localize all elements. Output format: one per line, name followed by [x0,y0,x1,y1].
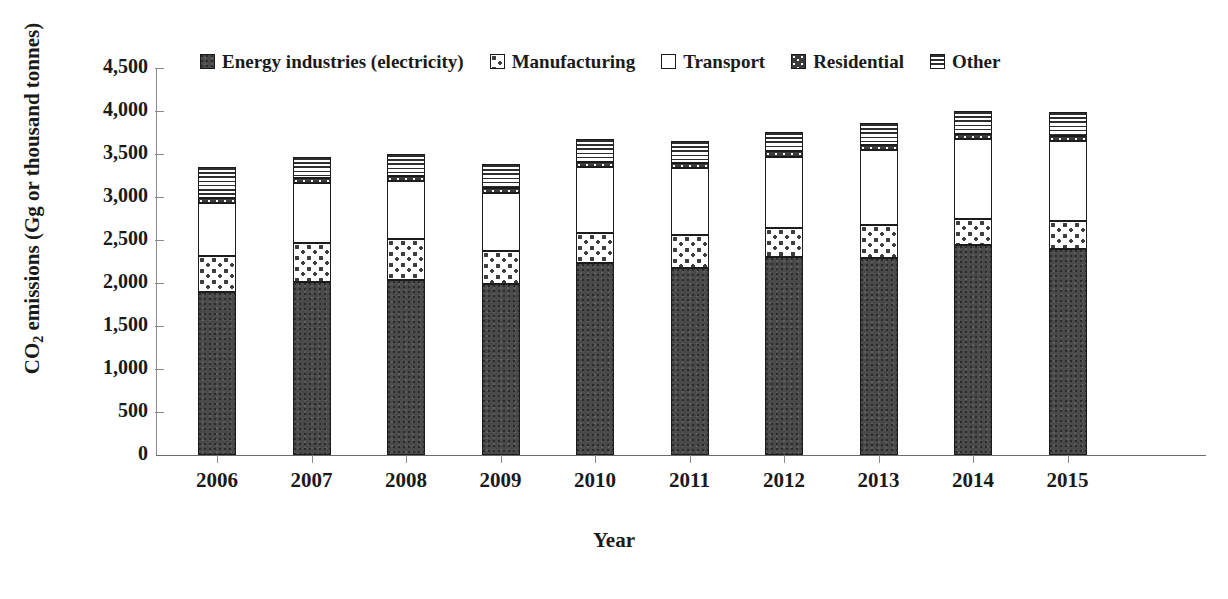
bar-segment-energy[interactable] [198,292,236,455]
bar-segment-residential[interactable] [860,145,898,150]
x-axis-tick-mark [595,455,596,463]
bar-segment-manufacturing[interactable] [576,233,614,263]
bar-segment-other[interactable] [387,154,425,176]
bar-segment-manufacturing[interactable] [387,239,425,280]
bar-segment-other[interactable] [482,164,520,187]
bar-segment-energy[interactable] [576,263,614,455]
legend-swatch-other [930,54,945,69]
x-axis-tick-label: 2007 [267,468,357,493]
bar-segment-transport[interactable] [860,150,898,225]
bar-segment-residential[interactable] [293,178,331,183]
y-axis-title-subscript: 2 [31,336,46,343]
bar-segment-transport[interactable] [293,183,331,242]
bar-segment-other[interactable] [860,123,898,145]
x-axis-tick-mark [690,455,691,463]
bar-2014[interactable] [954,68,992,455]
bar-segment-other[interactable] [576,139,614,162]
legend-swatch-manufacturing [490,54,505,69]
x-axis-tick-label: 2015 [1023,468,1113,493]
x-axis-tick-mark [879,455,880,463]
bar-2010[interactable] [576,68,614,455]
y-axis-tick-label: 3,500 [103,141,148,164]
bar-segment-other[interactable] [198,167,236,198]
x-axis-tick-label: 2008 [361,468,451,493]
y-axis-tick-label: 3,000 [103,184,148,207]
bar-segment-transport[interactable] [765,157,803,228]
bar-segment-transport[interactable] [1049,141,1087,221]
bar-segment-residential[interactable] [1049,136,1087,141]
bar-segment-other[interactable] [765,132,803,152]
y-axis-title: CO2 emissions (Gg or thousand tonnes) [20,0,45,399]
x-axis-tick-label: 2013 [834,468,924,493]
bar-2011[interactable] [671,68,709,455]
bar-segment-residential[interactable] [954,134,992,139]
x-axis-tick-label: 2006 [172,468,262,493]
x-axis-tick-mark [784,455,785,463]
legend-swatch-residential [791,54,806,69]
bar-segment-residential[interactable] [671,163,709,168]
bar-segment-transport[interactable] [671,168,709,235]
y-axis-tick-label: 0 [138,442,148,465]
bar-2009[interactable] [482,68,520,455]
bar-2015[interactable] [1049,68,1087,455]
y-axis-tick-label: 2,000 [103,270,148,293]
bar-segment-other[interactable] [293,157,331,178]
bar-2013[interactable] [860,68,898,455]
bar-segment-residential[interactable] [765,151,803,156]
bar-segment-manufacturing[interactable] [482,251,520,284]
bar-segment-transport[interactable] [576,167,614,233]
bar-segment-residential[interactable] [387,176,425,181]
y-axis-tick-label: 2,500 [103,227,148,250]
legend-swatch-energy [200,54,215,69]
y-axis-title-prefix: CO [20,343,44,375]
chart-container: Energy industries (electricity)Manufactu… [0,0,1228,599]
y-axis-tick-label: 4,000 [103,98,148,121]
bar-segment-other[interactable] [671,141,709,163]
bar-segment-manufacturing[interactable] [1049,221,1087,249]
plot-area [156,68,1206,455]
x-axis-tick-mark [406,455,407,463]
bar-segment-other[interactable] [1049,112,1087,136]
bar-segment-energy[interactable] [1049,249,1087,455]
y-axis-title-suffix: emissions (Gg or thousand tonnes) [20,23,44,336]
bar-segment-manufacturing[interactable] [954,219,992,245]
x-axis-tick-label: 2011 [645,468,735,493]
bar-2007[interactable] [293,68,331,455]
x-axis-title: Year [0,528,1228,553]
x-axis-tick-label: 2014 [928,468,1018,493]
y-axis-tick-label: 1,000 [103,356,148,379]
bar-segment-energy[interactable] [293,282,331,455]
y-axis-tick-label: 4,500 [103,55,148,78]
bar-segment-energy[interactable] [671,268,709,455]
bar-segment-manufacturing[interactable] [671,235,709,269]
bar-segment-manufacturing[interactable] [860,225,898,259]
bar-segment-residential[interactable] [198,198,236,203]
bar-segment-energy[interactable] [387,280,425,455]
x-axis-tick-mark [217,455,218,463]
x-axis-tick-mark [312,455,313,463]
x-axis-tick-mark [501,455,502,463]
x-axis-tick-label: 2009 [456,468,546,493]
bar-segment-transport[interactable] [387,181,425,239]
bar-2006[interactable] [198,68,236,455]
bar-2008[interactable] [387,68,425,455]
bar-segment-manufacturing[interactable] [198,256,236,291]
x-axis-tick-label: 2010 [550,468,640,493]
bar-segment-manufacturing[interactable] [293,243,331,283]
bar-segment-residential[interactable] [576,162,614,167]
bar-segment-manufacturing[interactable] [765,228,803,257]
bar-segment-energy[interactable] [860,258,898,455]
x-axis-tick-label: 2012 [739,468,829,493]
x-axis-line [156,455,1206,456]
bar-segment-other[interactable] [954,111,992,134]
bar-segment-transport[interactable] [482,193,520,251]
bar-segment-transport[interactable] [198,203,236,256]
bar-segment-transport[interactable] [954,139,992,219]
y-axis-tick-label: 1,500 [103,313,148,336]
bar-segment-energy[interactable] [482,284,520,455]
bar-segment-residential[interactable] [482,188,520,193]
bar-2012[interactable] [765,68,803,455]
bar-segment-energy[interactable] [954,245,992,455]
bar-segment-energy[interactable] [765,257,803,455]
y-axis-tick-label: 500 [118,399,148,422]
